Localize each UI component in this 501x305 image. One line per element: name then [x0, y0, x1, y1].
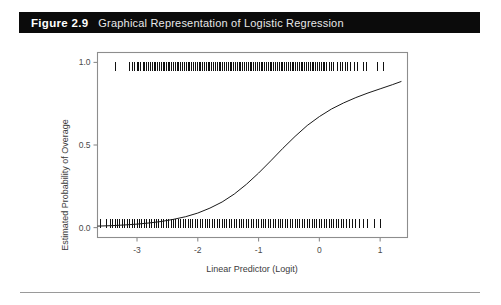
rug-plot-top: [115, 62, 383, 71]
figure-plot-area: Estimated Probability of Overage 0.00.51…: [0, 40, 501, 285]
y-tick-label: 1.0: [79, 57, 91, 67]
figure-number: Figure 2.9: [31, 17, 88, 29]
x-tick-label: -1: [255, 245, 263, 255]
y-tick-label: 0.5: [79, 140, 91, 150]
y-axis-title: Estimated Probability of Overage: [60, 119, 70, 251]
x-tick-label: 0: [317, 245, 322, 255]
footer-divider: [20, 292, 480, 293]
x-tick-label: 1: [378, 245, 383, 255]
x-axis-title: Linear Predictor (Logit): [206, 264, 298, 274]
logistic-curve: [98, 81, 402, 226]
x-axis-ticks: -3-2-101: [133, 238, 383, 255]
y-axis-ticks: 0.00.51.0: [79, 57, 98, 232]
y-tick-label: 0.0: [79, 223, 91, 233]
figure-caption-bar: Figure 2.9 Graphical Representation of L…: [19, 12, 480, 33]
rug-plot-bottom: [101, 219, 381, 228]
plot-frame: [98, 53, 408, 238]
x-tick-label: -2: [194, 245, 202, 255]
figure-title: Graphical Representation of Logistic Reg…: [98, 17, 343, 29]
logistic-regression-chart: Estimated Probability of Overage 0.00.51…: [0, 40, 501, 285]
x-tick-label: -3: [133, 245, 141, 255]
